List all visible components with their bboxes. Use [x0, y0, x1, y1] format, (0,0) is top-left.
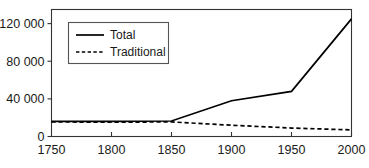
legend: Total Traditional: [69, 23, 169, 64]
y-tick-label: 120 000: [0, 17, 45, 31]
x-tick-label: 1750: [38, 143, 66, 157]
x-tick-label: 1900: [218, 143, 246, 157]
chart-canvas: 040 00080 000120 000 1750180018501900195…: [0, 0, 369, 168]
x-tick-label: 1800: [98, 143, 126, 157]
x-tick-label: 1950: [278, 143, 306, 157]
x-tick-label: 1850: [158, 143, 186, 157]
x-tick-label: 2000: [338, 143, 366, 157]
y-tick-label: 80 000: [6, 55, 44, 69]
legend-label-traditional: Traditional: [110, 45, 166, 59]
line-chart: 040 00080 000120 000 1750180018501900195…: [0, 0, 369, 168]
legend-label-total: Total: [110, 28, 135, 42]
y-tick-label: 40 000: [6, 92, 44, 106]
